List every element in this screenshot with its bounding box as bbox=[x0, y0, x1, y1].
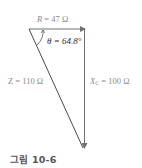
reactance-label: XC = 100 Ω bbox=[90, 77, 129, 86]
impedance-triangle-diagram: R = 47 Ω θ = 64.8° Z = 110 Ω XC = 100 Ω … bbox=[0, 0, 142, 168]
angle-value: = 64.8° bbox=[51, 36, 81, 46]
resistance-equals: = bbox=[42, 14, 51, 24]
resistance-value: 47 Ω bbox=[51, 14, 68, 24]
resistance-label: R = 47 Ω bbox=[37, 15, 68, 24]
figure-caption: 그림 10-6 bbox=[10, 152, 56, 166]
reactance-value: = 100 Ω bbox=[99, 76, 129, 86]
impedance-value: = 110 Ω bbox=[13, 76, 43, 86]
impedance-label: Z = 110 Ω bbox=[8, 77, 43, 86]
impedance-vector bbox=[29, 29, 83, 148]
angle-label: θ = 64.8° bbox=[47, 37, 81, 46]
angle-arc bbox=[37, 30, 43, 45]
